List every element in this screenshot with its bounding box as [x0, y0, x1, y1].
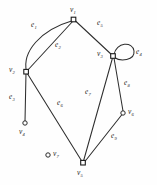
vertex-label-v4: v4	[19, 128, 25, 136]
vertex-v6	[121, 111, 125, 115]
edge-e5	[75, 21, 112, 56]
edge-label-e4: e4	[136, 49, 142, 56]
edge-label-e9: e9	[111, 133, 117, 140]
edge-label-e7: e7	[85, 89, 91, 96]
vertex-v7	[46, 153, 50, 157]
edge-e3	[25, 73, 26, 122]
graph-figure: v1 v2 v3 v4 v5 v6 v7 e1 e2 e3 e4 e5 e6 e…	[0, 0, 157, 185]
edge-label-e2: e2	[55, 42, 61, 49]
vertex-v1	[71, 17, 76, 22]
vertex-label-v6: v6	[128, 108, 134, 116]
edge-label-e1: e1	[31, 22, 37, 29]
vertex-label-v5: v5	[77, 169, 83, 177]
vertex-v2	[24, 69, 29, 74]
edge-e4-self-loop	[114, 44, 134, 60]
edge-e8	[114, 58, 123, 111]
edge-label-e8: e8	[124, 80, 130, 87]
vertex-label-v2: v2	[9, 66, 15, 74]
vertex-v3	[111, 54, 116, 59]
edge-label-e6: e6	[57, 100, 63, 107]
vertex-label-v1: v1	[70, 6, 76, 14]
vertex-label-v7: v7	[53, 150, 59, 158]
vertex-label-v3: v3	[97, 50, 103, 58]
edge-label-e5: e5	[97, 20, 103, 27]
vertex-v5	[81, 160, 86, 165]
graph-canvas	[0, 0, 157, 185]
vertex-v4	[23, 121, 27, 125]
edge-label-e3: e3	[9, 94, 15, 101]
